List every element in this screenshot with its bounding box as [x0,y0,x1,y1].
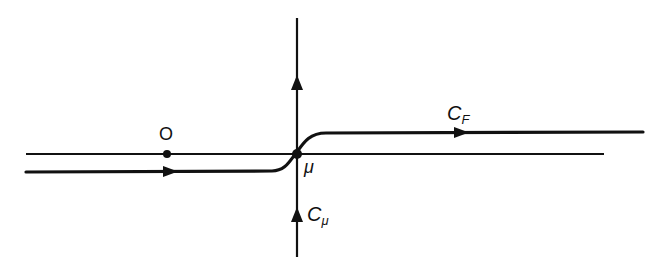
contour-c-f [26,132,643,172]
arrow-up-icon [291,75,303,90]
arrow-right-icon [163,166,178,177]
origin-label: O [159,124,173,145]
cmu-label-main: C [307,203,321,225]
cmu-label-sub: μ [321,213,328,228]
cf-label-main: C [447,102,461,124]
arrow-right-icon [454,127,469,138]
arrow-up-icon [291,207,303,222]
cf-label-sub: F [461,112,469,127]
origin-point [163,150,171,158]
contour-diagram [0,0,659,270]
mu-label: μ [304,157,314,178]
cf-label: CF [447,102,469,127]
mu-point [292,149,302,159]
cmu-label: Cμ [307,203,329,228]
